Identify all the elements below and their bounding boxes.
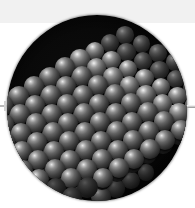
crystal-lattice bbox=[7, 15, 187, 201]
specimen-circle bbox=[7, 15, 187, 201]
illustration-canvas: Close-up of a crystal lattice rendered a… bbox=[0, 0, 195, 208]
